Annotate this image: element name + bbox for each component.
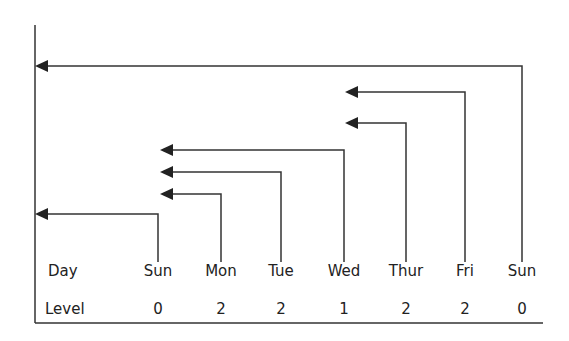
row-label-day: Day (48, 262, 78, 280)
backup-level-diagram (0, 0, 569, 341)
row-label-level: Level (45, 300, 85, 318)
arrow-tue-2 (171, 172, 281, 262)
arrowhead-icon (345, 86, 358, 98)
arrowhead-icon (35, 208, 48, 220)
day-label: Fri (456, 262, 474, 280)
level-value: 0 (517, 300, 527, 318)
level-value: 0 (153, 300, 163, 318)
level-value: 2 (460, 300, 470, 318)
day-label: Sun (144, 262, 173, 280)
arrow-sun-0 (46, 214, 158, 262)
arrow-fri-5 (356, 92, 465, 262)
arrowhead-icon (345, 117, 358, 129)
level-value: 2 (216, 300, 226, 318)
level-value: 1 (339, 300, 349, 318)
arrowhead-icon (35, 60, 48, 72)
day-label: Tue (268, 262, 294, 280)
day-label: Thur (389, 262, 423, 280)
arrowhead-icon (160, 166, 173, 178)
arrow-wed-3 (171, 150, 344, 262)
arrow-sun-6 (46, 66, 522, 262)
arrow-thur-4 (356, 123, 406, 262)
day-label: Wed (328, 262, 361, 280)
arrow-mon-1 (171, 194, 221, 262)
level-value: 2 (401, 300, 411, 318)
arrowhead-icon (160, 144, 173, 156)
day-label: Sun (508, 262, 537, 280)
arrowhead-icon (160, 188, 173, 200)
level-value: 2 (276, 300, 286, 318)
day-label: Mon (205, 262, 237, 280)
